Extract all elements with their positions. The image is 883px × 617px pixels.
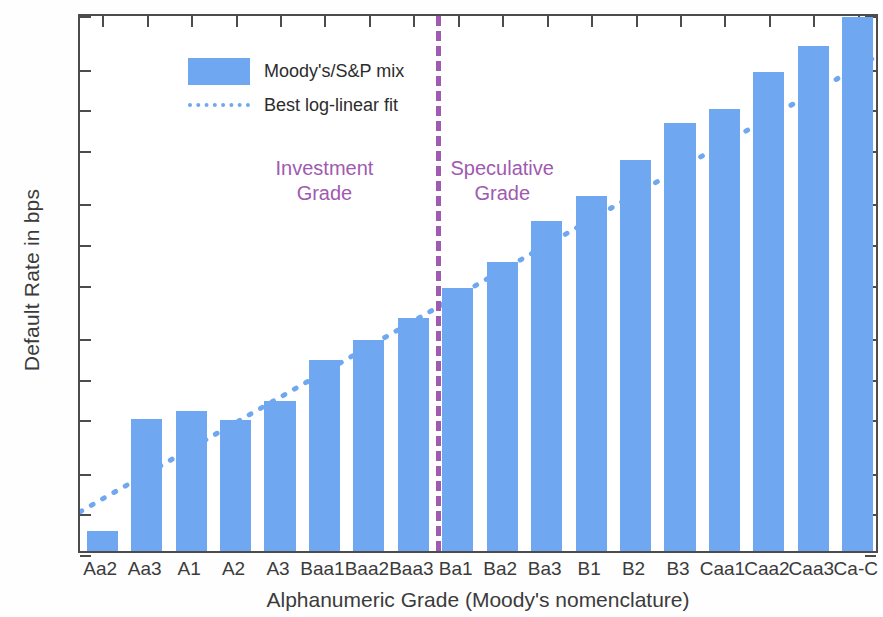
x-tick-mark-top xyxy=(236,16,238,27)
x-tick-mark-top xyxy=(813,16,815,27)
annotation-investment-grade: Investment Grade xyxy=(244,156,404,206)
x-tick-label-baa1: Baa1 xyxy=(300,558,344,580)
x-tick-mark-top xyxy=(458,16,460,27)
x-tick-label-b2: B2 xyxy=(622,558,645,580)
x-tick-label-b3: B3 xyxy=(666,558,689,580)
y-tick-mark xyxy=(80,151,91,153)
x-tick-mark-top xyxy=(724,16,726,27)
x-tick-mark-top xyxy=(769,16,771,27)
x-tick-label-caa2: Caa2 xyxy=(744,558,789,580)
y-tick-mark xyxy=(80,70,91,72)
y-tick-mark xyxy=(80,245,91,247)
bar-caa1 xyxy=(709,109,740,551)
x-tick-label-baa3: Baa3 xyxy=(389,558,433,580)
bar-ba3 xyxy=(531,221,562,551)
y-tick-mark xyxy=(80,380,91,382)
x-tick-mark-top xyxy=(502,16,504,27)
x-tick-mark-top xyxy=(280,16,282,27)
y-tick-mark xyxy=(80,420,91,422)
x-tick-label-b1: B1 xyxy=(577,558,600,580)
bar-a1 xyxy=(176,411,207,551)
legend-item-moodys-sp-mix: Moody's/S&P mix xyxy=(188,54,448,88)
bar-ca-c xyxy=(842,17,873,551)
bar-caa3 xyxy=(798,46,829,551)
bar-caa2 xyxy=(753,72,784,551)
y-tick-mark xyxy=(80,339,91,341)
bar-b2 xyxy=(620,160,651,551)
x-tick-label-a1: A1 xyxy=(177,558,200,580)
y-tick-mark xyxy=(80,110,91,112)
y-axis-label: Default Rate in bps xyxy=(20,130,44,430)
x-tick-label-ba3: Ba3 xyxy=(528,558,562,580)
y-tick-mark xyxy=(80,204,91,206)
plot-area: 5000200010005002001005020105210.5 Invest… xyxy=(78,14,878,553)
x-tick-label-baa2: Baa2 xyxy=(345,558,389,580)
y-tick-mark xyxy=(80,16,91,18)
y-tick-mark xyxy=(80,555,91,557)
y-tick-mark xyxy=(80,514,91,516)
bar-a3 xyxy=(264,401,295,551)
y-tick-mark xyxy=(80,474,91,476)
x-tick-label-ba2: Ba2 xyxy=(483,558,517,580)
x-tick-label-aa3: Aa3 xyxy=(128,558,162,580)
x-tick-label-caa3: Caa3 xyxy=(789,558,834,580)
default-rate-chart-figure: Default Rate in bps Alphanumeric Grade (… xyxy=(0,0,883,617)
bar-a2 xyxy=(220,420,251,551)
annotation-speculative-grade: Speculative Grade xyxy=(422,156,582,206)
x-tick-mark-top xyxy=(369,16,371,27)
y-tick-mark-right xyxy=(865,555,876,557)
x-tick-mark-top xyxy=(680,16,682,27)
x-tick-label-ca-c: Ca-C xyxy=(834,558,878,580)
bar-baa2 xyxy=(353,340,384,551)
x-tick-mark-top xyxy=(102,16,104,27)
legend-label-best-log-linear-fit: Best log-linear fit xyxy=(264,95,398,116)
y-tick-mark xyxy=(80,286,91,288)
bar-ba1 xyxy=(442,288,473,551)
bar-baa1 xyxy=(309,360,340,551)
x-tick-mark-top xyxy=(324,16,326,27)
x-tick-mark-top xyxy=(147,16,149,27)
x-tick-mark-top xyxy=(547,16,549,27)
x-tick-mark-top xyxy=(636,16,638,27)
chart-legend: Moody's/S&P mix Best log-linear fit xyxy=(188,54,448,122)
bar-b1 xyxy=(576,196,607,551)
legend-item-best-log-linear-fit: Best log-linear fit xyxy=(188,88,448,122)
bar-ba2 xyxy=(487,262,518,551)
bar-baa3 xyxy=(398,318,429,551)
x-tick-mark-top xyxy=(591,16,593,27)
x-tick-label-a3: A3 xyxy=(266,558,289,580)
x-axis-label: Alphanumeric Grade (Moody's nomenclature… xyxy=(78,588,878,612)
legend-dotted-line-icon xyxy=(188,92,250,119)
legend-label-moodys-sp-mix: Moody's/S&P mix xyxy=(264,61,404,82)
bar-b3 xyxy=(664,123,695,551)
legend-swatch-icon xyxy=(188,58,250,85)
x-tick-label-caa1: Caa1 xyxy=(700,558,745,580)
x-tick-label-a2: A2 xyxy=(222,558,245,580)
x-tick-label-ba1: Ba1 xyxy=(439,558,473,580)
bar-aa2 xyxy=(87,531,118,551)
x-tick-mark-top xyxy=(191,16,193,27)
bar-aa3 xyxy=(131,419,162,551)
x-tick-mark-top xyxy=(413,16,415,27)
x-tick-label-aa2: Aa2 xyxy=(83,558,117,580)
